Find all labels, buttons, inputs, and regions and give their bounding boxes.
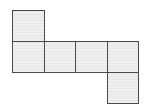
face-5: [107, 41, 140, 73]
face-4: [75, 41, 108, 73]
face-3: [44, 41, 77, 73]
face-2: [12, 41, 45, 73]
face-1: [12, 10, 45, 42]
face-6: [107, 72, 140, 104]
